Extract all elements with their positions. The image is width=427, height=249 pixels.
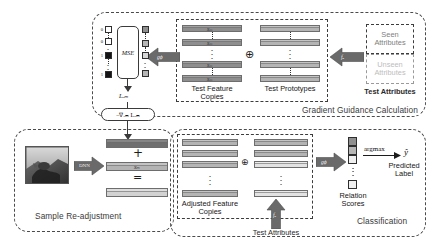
bar-top-face bbox=[183, 151, 237, 153]
bar-top-face bbox=[261, 62, 319, 64]
arrow-features-to-mse bbox=[146, 47, 180, 67]
relation-scores-ellipsis: ⋮ bbox=[347, 167, 359, 177]
ellipsis-dot: · bbox=[206, 56, 218, 60]
bar-top-face bbox=[261, 40, 319, 42]
ellipsis-dot: · bbox=[275, 182, 287, 186]
test-feature-copies-caption-line2: Copies bbox=[182, 93, 242, 102]
panel-sample-readjustment-title: Sample Re-adjustment bbox=[33, 211, 123, 221]
arrow-label-gphi-bottom: gϕ bbox=[321, 159, 327, 165]
bar-top-face bbox=[107, 140, 167, 143]
binary-label: 0 bbox=[97, 39, 103, 44]
arrow-label-fa-bottom: fₐ bbox=[273, 212, 276, 218]
predicted-attribute-square bbox=[142, 40, 149, 47]
adjusted-copies-ellipsis: · · · bbox=[204, 174, 216, 186]
bar-top-face bbox=[255, 151, 307, 153]
bar-top-face bbox=[255, 140, 307, 142]
figure-canvas: Gradient Guidance Calculation xₘ xₘ · · … bbox=[0, 0, 427, 249]
prototype-bar bbox=[260, 25, 320, 32]
test-attributes-caption-top: Test Attributes bbox=[360, 88, 420, 97]
bar-top-face bbox=[183, 140, 237, 142]
bar-connector-dots bbox=[290, 68, 291, 75]
loss-label-gm: Lₒₘ bbox=[119, 92, 128, 100]
attributes-ellipsis: · · · bbox=[275, 174, 287, 186]
test-attributes-caption-bottom: Test Attributes bbox=[246, 229, 306, 238]
relation-score-square bbox=[348, 137, 357, 146]
adjusted-feature-copies-caption-line2: Copies bbox=[176, 208, 244, 217]
bar-top-face bbox=[261, 76, 319, 78]
oplus-icon-gradient: ⊕ bbox=[245, 49, 254, 60]
gradient-pill: −∇ₓₘ Lₒₘ bbox=[101, 108, 155, 121]
binary-ellipsis: · · bbox=[102, 63, 114, 71]
adjusted-feature-copy-bar bbox=[182, 190, 238, 197]
argmax-arrowhead bbox=[394, 152, 401, 159]
seen-attributes-label-line2: Attributes bbox=[366, 39, 414, 48]
bar-top-face bbox=[183, 191, 237, 193]
bar-connector-dots bbox=[290, 32, 291, 39]
test-attribute-bar bbox=[254, 139, 308, 146]
feature-copies-ellipsis: · · · bbox=[206, 48, 218, 60]
oplus-icon-classification: ⊕ bbox=[241, 157, 249, 168]
attribute-connector-dots bbox=[145, 33, 146, 39]
panel-classification-title: Classification bbox=[355, 216, 409, 226]
binary-square-one bbox=[105, 71, 112, 78]
relation-score-square bbox=[348, 155, 357, 164]
relation-score-square bbox=[348, 180, 357, 189]
ellipsis-dot: · bbox=[204, 182, 216, 186]
bar-connector-dots bbox=[212, 32, 213, 39]
test-prototypes-caption: Test Prototypes bbox=[260, 85, 320, 94]
adjusted-feature-copy-bar bbox=[182, 161, 238, 168]
plus-symbol: + bbox=[133, 148, 143, 159]
mse-box-label: MSE bbox=[117, 49, 139, 56]
arrow-test-attributes-to-prototypes bbox=[330, 47, 364, 67]
arrow-label-fa-top: fₐ bbox=[341, 54, 344, 60]
prototype-bar bbox=[260, 61, 320, 68]
argmax-underline bbox=[363, 155, 395, 156]
feature-copy-bar-label: xₘ bbox=[207, 76, 212, 82]
ellipsis-dot: · bbox=[139, 65, 151, 69]
relation-score-square bbox=[348, 146, 357, 155]
prototypes-ellipsis: · · · bbox=[284, 48, 296, 60]
attribute-ellipsis: · · bbox=[139, 61, 151, 69]
predicted-attribute-square bbox=[142, 70, 149, 77]
bar-top-face bbox=[183, 162, 237, 164]
bar-top-face bbox=[107, 189, 167, 192]
arrow-label-dnn: DNN bbox=[79, 163, 90, 168]
unseen-attributes-label-line2: Attributes bbox=[366, 69, 414, 78]
binary-square-one bbox=[105, 52, 112, 59]
predicted-attribute-square bbox=[142, 26, 149, 33]
bar-top-face bbox=[261, 26, 319, 28]
attribute-connector-dots bbox=[145, 47, 146, 51]
panel-gradient-guidance-title: Gradient Guidance Calculation bbox=[300, 105, 420, 115]
test-attribute-bar bbox=[254, 150, 308, 157]
binary-label: 1 bbox=[97, 53, 103, 58]
binary-label: 1 bbox=[97, 72, 103, 77]
arrow-label-gphi-top: gϕ bbox=[157, 54, 163, 60]
adjusted-feature-copy-bar bbox=[182, 150, 238, 157]
predicted-label-caption-line2: Label bbox=[382, 170, 426, 179]
prototype-bar bbox=[260, 75, 320, 82]
bar-top-face bbox=[255, 191, 307, 193]
test-attribute-bar bbox=[254, 161, 308, 168]
input-image-thumbnail bbox=[25, 146, 69, 184]
ellipsis-dot: · bbox=[284, 56, 296, 60]
equals-symbol: = bbox=[133, 172, 142, 183]
adjusted-feature-copy-bar bbox=[182, 139, 238, 146]
predicted-label-symbol: ŷ bbox=[404, 147, 408, 157]
sample-feature-bar-label: xₘ bbox=[134, 164, 139, 170]
relation-scores-caption-line2: Scores bbox=[330, 200, 376, 209]
bar-top-face bbox=[255, 162, 307, 164]
binary-square-zero bbox=[105, 26, 112, 33]
adjusted-feature-bar bbox=[106, 188, 168, 197]
test-attribute-bar bbox=[254, 190, 308, 197]
binary-label: 0 bbox=[97, 27, 103, 32]
argmax-label: argmax bbox=[364, 145, 385, 153]
bar-connector-dots bbox=[212, 68, 213, 75]
